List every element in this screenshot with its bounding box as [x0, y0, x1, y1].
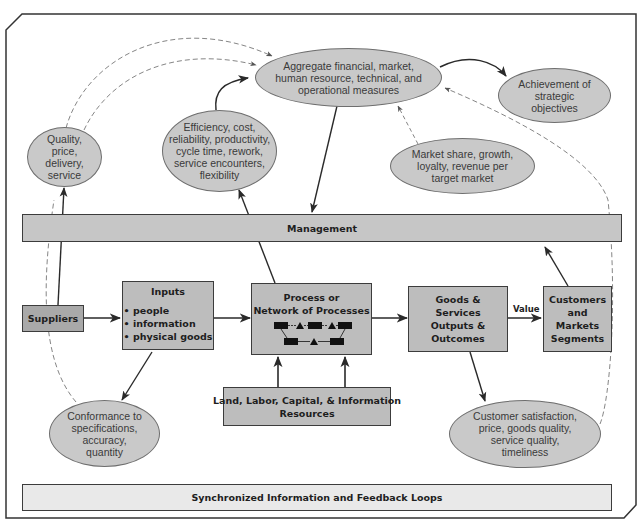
customers-line-1: Customers [549, 293, 606, 306]
conformance-line-1: Conformance to [67, 410, 142, 422]
outputs-line-3: Outputs & [431, 319, 486, 332]
quality-line-1: Quality, [47, 133, 82, 145]
achievement-line-3: objectives [531, 102, 578, 114]
resources-line-2: Resources [279, 407, 334, 420]
outputs-line-1: Goods & [436, 293, 481, 306]
customers-line-2: and [568, 306, 588, 319]
management-label: Management [287, 223, 357, 234]
feedback-loops-bar: Synchronized Information and Feedback Lo… [22, 484, 612, 511]
resources-line-1: Land, Labor, Capital, & Information [213, 394, 401, 407]
quality-line-2: price, [52, 145, 78, 157]
conformance-ellipse: Conformance to specifications, accuracy,… [49, 400, 160, 467]
conformance-line-2: specifications, [72, 422, 138, 434]
diagram-canvas: Aggregate financial, market, human resou… [0, 0, 642, 526]
value-edge-label: Value [513, 304, 540, 314]
efficiency-line-1: Efficiency, cost, [184, 121, 256, 133]
outputs-box: Goods & Services Outputs & Outcomes [408, 286, 508, 352]
management-bar: Management [22, 214, 622, 242]
process-network-icon [272, 320, 354, 350]
customer-sat-line-1: Customer satisfaction, [473, 410, 577, 422]
aggregate-line-2: human resource, technical, and [275, 72, 422, 84]
customers-line-3: Markets [556, 319, 599, 332]
efficiency-line-5: flexibility [200, 169, 240, 181]
inputs-item-people: • people [124, 304, 213, 317]
outputs-line-2: Services [435, 306, 480, 319]
aggregate-measures-ellipse: Aggregate financial, market, human resou… [255, 48, 442, 107]
quality-line-4: service [48, 169, 81, 181]
resources-box: Land, Labor, Capital, & Information Reso… [223, 387, 391, 426]
efficiency-line-2: reliability, productivity, [169, 133, 270, 145]
market-share-line-2: loyalty, revenue per [417, 160, 508, 172]
achievement-line-1: Achievement of [518, 78, 590, 90]
customer-sat-line-3: service quality, [491, 434, 560, 446]
achievement-line-2: strategic [535, 90, 575, 102]
customer-sat-line-4: timeliness [502, 446, 549, 458]
efficiency-line-3: cycle time, rework, [176, 145, 263, 157]
market-share-line-1: Market share, growth, [412, 148, 514, 160]
efficiency-ellipse: Efficiency, cost, reliability, productiv… [162, 110, 277, 192]
achievement-ellipse: Achievement of strategic objectives [498, 68, 611, 123]
quality-line-3: delivery, [45, 157, 83, 169]
suppliers-label: Suppliers [28, 312, 79, 325]
inputs-title: Inputs [151, 285, 185, 298]
inputs-item-physical-goods: • physical goods [124, 330, 213, 343]
customer-satisfaction-ellipse: Customer satisfaction, price, goods qual… [449, 400, 601, 468]
process-box: Process or Network of Processes [251, 283, 372, 355]
aggregate-line-3: operational measures [298, 84, 399, 96]
market-share-ellipse: Market share, growth, loyalty, revenue p… [390, 138, 535, 194]
conformance-line-4: quantity [86, 446, 123, 458]
inputs-list: • people • information • physical goods [124, 304, 213, 343]
market-share-line-3: target market [432, 172, 494, 184]
inputs-box: Inputs • people • information • physical… [122, 281, 214, 350]
customer-sat-line-2: price, goods quality, [479, 422, 572, 434]
efficiency-line-4: service encounters, [174, 157, 265, 169]
feedback-loops-label: Synchronized Information and Feedback Lo… [192, 492, 443, 503]
suppliers-box: Suppliers [22, 305, 84, 332]
inputs-item-information: • information [124, 317, 213, 330]
aggregate-line-1: Aggregate financial, market, [283, 60, 414, 72]
customers-box: Customers and Markets Segments [543, 286, 612, 352]
process-line-2: Network of Processes [253, 304, 369, 317]
process-line-1: Process or [283, 291, 339, 304]
outputs-line-4: Outcomes [431, 332, 485, 345]
customers-line-4: Segments [551, 332, 604, 345]
conformance-line-3: accuracy, [82, 434, 126, 446]
quality-ellipse: Quality, price, delivery, service [27, 127, 102, 187]
